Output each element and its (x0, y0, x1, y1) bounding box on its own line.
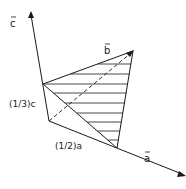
svg-text:b: b (104, 45, 110, 56)
third-c-label: (1/3)c (9, 99, 36, 109)
a-axis-arrowhead-icon (177, 171, 186, 177)
triangle-edge-c-b (43, 51, 133, 84)
svg-text:a: a (144, 153, 150, 164)
hatch-lines (43, 64, 131, 140)
b-vector-dashed-line (49, 53, 131, 121)
vector-diagram: c b a (1/3)c (1/2)a (0, 0, 186, 189)
svg-text:c: c (10, 18, 16, 29)
c-axis-arrowhead-icon (28, 11, 34, 18)
triangle-edge-a-c (43, 84, 117, 148)
c-axis-label: c (10, 17, 16, 29)
a-axis-label: a (144, 152, 150, 164)
triangle-edge-b-a (117, 51, 133, 148)
half-a-label: (1/2)a (55, 141, 82, 151)
b-vector-label: b (104, 44, 110, 56)
